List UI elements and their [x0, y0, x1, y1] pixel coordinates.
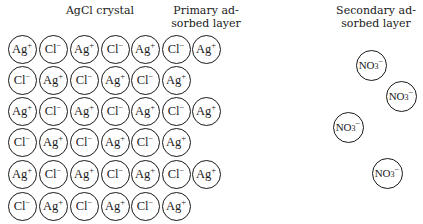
ion-symbol: NO	[375, 167, 391, 179]
ion-symbol: Ag	[43, 135, 58, 150]
ion-symbol: Cl	[45, 42, 57, 57]
silver-ion-circle: Ag+	[8, 35, 37, 64]
nitrate-ion-circle: NO3−	[372, 158, 403, 189]
silver-ion-circle: Ag+	[70, 35, 99, 64]
ion-symbol: Ag	[166, 73, 181, 88]
ion-symbol: NO	[389, 90, 405, 102]
ion-symbol: Ag	[74, 42, 89, 57]
chloride-ion-circle: Cl−	[39, 97, 68, 126]
silver-ion-circle: Ag+	[162, 192, 191, 221]
ion-symbol: Cl	[168, 104, 180, 119]
primary-layer-label: Primary ad- sorbed layer	[168, 4, 244, 30]
ion-symbol: Cl	[107, 167, 119, 182]
ion-symbol: Ag	[135, 42, 150, 57]
primary-adsorbed-ion-circle: Ag+	[192, 35, 221, 64]
silver-ion-circle: Ag+	[39, 128, 68, 157]
chloride-ion-circle: Cl−	[162, 97, 191, 126]
chloride-ion-circle: Cl−	[39, 35, 68, 64]
ion-symbol: Ag	[166, 135, 181, 150]
chloride-ion-circle: Cl−	[131, 66, 160, 95]
ion-symbol: Cl	[45, 104, 57, 119]
ion-symbol: Cl	[107, 42, 119, 57]
ion-symbol: Ag	[135, 167, 150, 182]
ion-symbol: Cl	[45, 167, 57, 182]
silver-ion-circle: Ag+	[8, 97, 37, 126]
ion-symbol: Ag	[166, 199, 181, 214]
ion-symbol: Cl	[14, 73, 26, 88]
silver-ion-circle: Ag+	[39, 66, 68, 95]
ion-symbol: Ag	[12, 104, 27, 119]
chloride-ion-circle: Cl−	[39, 160, 68, 189]
primary-label-line2: sorbed layer	[168, 17, 244, 30]
silver-ion-circle: Ag+	[8, 160, 37, 189]
primary-label-line1: Primary ad-	[168, 4, 244, 17]
nitrate-ion-circle: NO3−	[333, 112, 364, 143]
ion-symbol: Cl	[137, 199, 149, 214]
ion-symbol: Cl	[168, 167, 180, 182]
ion-symbol: NO	[359, 59, 375, 71]
ion-symbol: Cl	[76, 73, 88, 88]
chloride-ion-circle: Cl−	[101, 160, 130, 189]
silver-ion-circle: Ag+	[101, 128, 130, 157]
nitrate-ion-circle: NO3−	[386, 81, 417, 112]
ion-symbol: NO	[336, 121, 352, 133]
chloride-ion-circle: Cl−	[8, 66, 37, 95]
silver-ion-circle: Ag+	[131, 160, 160, 189]
chloride-ion-circle: Cl−	[162, 35, 191, 64]
silver-ion-circle: Ag+	[70, 97, 99, 126]
ion-symbol: Ag	[12, 42, 27, 57]
ion-symbol: Ag	[74, 104, 89, 119]
ion-symbol: Ag	[105, 73, 120, 88]
ion-symbol: Ag	[196, 167, 211, 182]
chloride-ion-circle: Cl−	[162, 160, 191, 189]
secondary-label-line1: Secondary ad-	[334, 4, 418, 17]
ion-symbol: Cl	[137, 73, 149, 88]
ion-symbol: Ag	[43, 199, 58, 214]
ion-symbol: Ag	[105, 199, 120, 214]
chloride-ion-circle: Cl−	[8, 128, 37, 157]
secondary-layer-label: Secondary ad- sorbed layer	[334, 4, 418, 30]
silver-ion-circle: Ag+	[131, 35, 160, 64]
ion-symbol: Cl	[76, 135, 88, 150]
chloride-ion-circle: Cl−	[131, 192, 160, 221]
chloride-ion-circle: Cl−	[70, 128, 99, 157]
silver-ion-circle: Ag+	[162, 128, 191, 157]
ion-symbol: Cl	[168, 42, 180, 57]
ion-symbol: Ag	[135, 104, 150, 119]
silver-ion-circle: Ag+	[162, 66, 191, 95]
chloride-ion-circle: Cl−	[70, 192, 99, 221]
chloride-ion-circle: Cl−	[101, 35, 130, 64]
chloride-ion-circle: Cl−	[8, 192, 37, 221]
chloride-ion-circle: Cl−	[131, 128, 160, 157]
secondary-label-line2: sorbed layer	[334, 17, 418, 30]
ion-symbol: Cl	[14, 199, 26, 214]
ion-symbol: Cl	[76, 199, 88, 214]
ion-symbol: Ag	[12, 167, 27, 182]
primary-adsorbed-ion-circle: Ag+	[192, 97, 221, 126]
ion-symbol: Ag	[74, 167, 89, 182]
silver-ion-circle: Ag+	[39, 192, 68, 221]
ion-symbol: Ag	[105, 135, 120, 150]
silver-ion-circle: Ag+	[101, 66, 130, 95]
primary-adsorbed-ion-circle: Ag+	[192, 160, 221, 189]
ion-symbol: Cl	[107, 104, 119, 119]
silver-ion-circle: Ag+	[70, 160, 99, 189]
nitrate-ion-circle: NO3−	[356, 50, 387, 81]
silver-ion-circle: Ag+	[131, 97, 160, 126]
ion-symbol: Ag	[196, 42, 211, 57]
ion-symbol: Cl	[137, 135, 149, 150]
ion-symbol: Cl	[14, 135, 26, 150]
silver-ion-circle: Ag+	[101, 192, 130, 221]
ion-symbol: Ag	[43, 73, 58, 88]
chloride-ion-circle: Cl−	[101, 97, 130, 126]
ion-symbol: Ag	[196, 104, 211, 119]
chloride-ion-circle: Cl−	[70, 66, 99, 95]
crystal-label: AgCl crystal	[52, 4, 148, 17]
